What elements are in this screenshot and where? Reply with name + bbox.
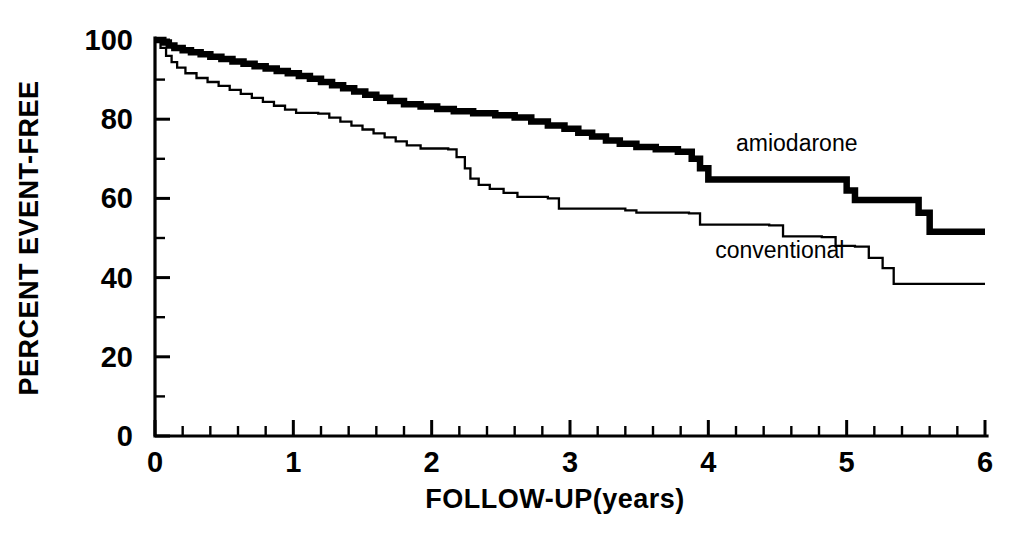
x-tick-label: 1 bbox=[285, 446, 301, 478]
x-tick-label: 5 bbox=[839, 446, 855, 478]
series-line-amiodarone bbox=[155, 40, 985, 232]
y-axis-title: PERCENT EVENT-FREE bbox=[14, 80, 44, 395]
y-tick-label: 100 bbox=[85, 24, 133, 56]
x-axis-major-ticks bbox=[155, 420, 985, 436]
kaplan-meier-chart: 020406080100 0123456 PERCENT EVENT-FREE … bbox=[0, 0, 1025, 535]
x-tick-label: 0 bbox=[147, 446, 163, 478]
y-tick-label: 20 bbox=[101, 341, 133, 373]
series-line-conventional bbox=[155, 40, 985, 284]
chart-container: 020406080100 0123456 PERCENT EVENT-FREE … bbox=[0, 0, 1025, 535]
x-axis-title: FOLLOW-UP(years) bbox=[425, 484, 684, 514]
y-tick-label: 0 bbox=[117, 420, 133, 452]
x-tick-label: 3 bbox=[562, 446, 578, 478]
x-tick-label: 2 bbox=[424, 446, 440, 478]
annotation-conventional: conventional bbox=[715, 237, 844, 263]
y-tick-label: 60 bbox=[101, 182, 133, 214]
y-tick-label: 80 bbox=[101, 103, 133, 135]
x-axis-tick-labels: 0123456 bbox=[147, 446, 993, 478]
x-tick-label: 6 bbox=[977, 446, 993, 478]
annotation-amiodarone: amiodarone bbox=[736, 130, 857, 156]
axis-lines bbox=[155, 38, 987, 436]
y-axis-tick-labels: 020406080100 bbox=[85, 24, 133, 452]
x-tick-label: 4 bbox=[700, 446, 716, 478]
axes bbox=[155, 38, 987, 436]
y-tick-label: 40 bbox=[101, 262, 133, 294]
